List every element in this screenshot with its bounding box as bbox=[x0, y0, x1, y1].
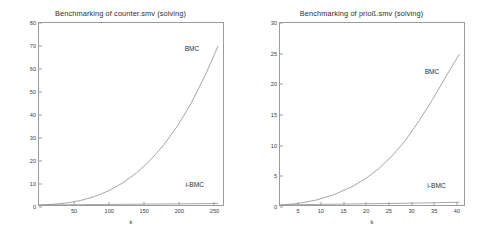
x-tick-mark bbox=[343, 202, 344, 205]
y-tick-label: 70 bbox=[30, 43, 39, 49]
x-tick-mark bbox=[411, 202, 412, 205]
plot-area-left: 0102030405060708050100150200250BMCi-BMC bbox=[38, 22, 224, 206]
x-tick-mark bbox=[388, 202, 389, 205]
y-tick-mark bbox=[280, 115, 283, 116]
y-tick-mark bbox=[280, 23, 283, 24]
y-tick-label: 10 bbox=[271, 143, 280, 149]
x-tick-label: 5 bbox=[297, 205, 300, 214]
y-tick-label: 60 bbox=[30, 66, 39, 72]
series-label-i-bmc: i-BMC bbox=[427, 181, 445, 188]
x-tick-mark bbox=[109, 202, 110, 205]
x-tick-mark bbox=[434, 202, 435, 205]
y-tick-label: 20 bbox=[30, 158, 39, 164]
chart-title-right: Benchmarking of prioß.smv (solving) bbox=[241, 9, 482, 18]
x-tick-label: 15 bbox=[340, 205, 346, 214]
y-tick-mark bbox=[280, 53, 283, 54]
x-tick-label: 200 bbox=[175, 205, 184, 214]
y-tick-mark bbox=[39, 161, 42, 162]
x-axis-label-right: k bbox=[279, 219, 465, 225]
x-tick-mark bbox=[74, 202, 75, 205]
series-label-bmc: BMC bbox=[185, 45, 200, 52]
y-tick-label: 40 bbox=[30, 112, 39, 118]
x-tick-label: 30 bbox=[408, 205, 414, 214]
x-tick-label: 40 bbox=[454, 205, 460, 214]
y-tick-label: 30 bbox=[271, 20, 280, 26]
x-tick-label: 150 bbox=[140, 205, 149, 214]
y-tick-label: 25 bbox=[271, 51, 280, 57]
y-tick-mark bbox=[280, 84, 283, 85]
figure-left: Benchmarking of counter.smv (solving) be… bbox=[0, 0, 241, 236]
figure-right: Benchmarking of prioß.smv (solving) 0510… bbox=[241, 0, 482, 236]
x-tick-mark bbox=[214, 202, 215, 205]
y-tick-label: 15 bbox=[271, 112, 280, 118]
y-tick-label: 20 bbox=[271, 81, 280, 87]
y-tick-mark bbox=[39, 46, 42, 47]
y-tick-label: 50 bbox=[30, 89, 39, 95]
chart-title-left: Benchmarking of counter.smv (solving) bbox=[0, 9, 241, 18]
y-tick-mark bbox=[39, 184, 42, 185]
figure-row: Benchmarking of counter.smv (solving) be… bbox=[0, 0, 482, 236]
x-tick-label: 100 bbox=[105, 205, 114, 214]
x-tick-label: 10 bbox=[318, 205, 324, 214]
x-tick-label: 20 bbox=[363, 205, 369, 214]
x-tick-mark bbox=[298, 202, 299, 205]
x-tick-mark bbox=[179, 202, 180, 205]
y-tick-mark bbox=[39, 23, 42, 24]
x-tick-label: 50 bbox=[71, 205, 77, 214]
x-tick-mark bbox=[144, 202, 145, 205]
x-tick-mark bbox=[320, 202, 321, 205]
x-tick-label: 25 bbox=[386, 205, 392, 214]
y-tick-mark bbox=[39, 69, 42, 70]
series-label-i-bmc: i-BMC bbox=[186, 181, 204, 188]
y-tick-mark bbox=[280, 145, 283, 146]
x-tick-mark bbox=[366, 202, 367, 205]
y-tick-mark bbox=[39, 92, 42, 93]
y-tick-mark bbox=[39, 207, 42, 208]
plot-curves-right bbox=[280, 23, 464, 205]
y-tick-mark bbox=[280, 207, 283, 208]
y-tick-mark bbox=[39, 115, 42, 116]
series-label-bmc: BMC bbox=[425, 67, 440, 74]
y-tick-mark bbox=[280, 176, 283, 177]
y-tick-mark bbox=[39, 138, 42, 139]
plot-area-right: 051015202530510152025303540BMCi-BMC bbox=[279, 22, 465, 206]
y-tick-label: 30 bbox=[30, 135, 39, 141]
y-tick-label: 80 bbox=[30, 20, 39, 26]
x-tick-label: 35 bbox=[431, 205, 437, 214]
x-tick-label: 250 bbox=[210, 205, 219, 214]
x-axis-label-left: k bbox=[38, 219, 224, 225]
series-curve-i-bmc bbox=[39, 203, 218, 205]
y-tick-label: 10 bbox=[30, 181, 39, 187]
x-tick-mark bbox=[456, 202, 457, 205]
